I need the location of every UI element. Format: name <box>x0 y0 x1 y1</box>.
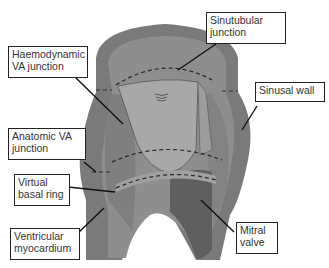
label-sinutubular-junction: Sinutubular junction <box>206 12 286 44</box>
label-sinusal-wall: Sinusal wall <box>255 82 325 102</box>
label-ventricular-myocardium: Ventricular myocardium <box>10 228 80 260</box>
label-haemodynamic-va-junction: Haemodynamic VA junction <box>8 46 88 78</box>
label-virtual-basal-ring: Virtual basal ring <box>14 174 70 206</box>
label-mitral-valve: Mitral valve <box>236 222 278 254</box>
label-anatomic-va-junction: Anatomic VA junction <box>8 128 86 160</box>
